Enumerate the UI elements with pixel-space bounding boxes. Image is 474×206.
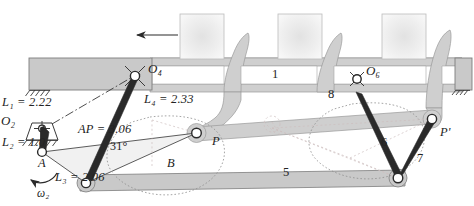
label-link-6: 6 [381, 136, 387, 149]
label-O4-text: O₄ [148, 61, 162, 76]
label-B: B [167, 157, 175, 170]
label-link-7-text: 7 [417, 151, 423, 165]
block-3 [382, 14, 426, 59]
label-L2-text: L₂ = 1.0 [2, 135, 45, 149]
bottom-bar-link5 [77, 169, 407, 192]
label-B-text: B [167, 156, 175, 170]
label-O4: O₄ [148, 62, 162, 75]
label-A-text: A [38, 156, 46, 170]
label-link-6-text: 6 [381, 135, 387, 149]
label-link-5-text: 5 [283, 165, 289, 179]
pivot-Pprime [427, 114, 436, 123]
label-L3-text: L₃ = 2.06 [55, 170, 105, 184]
label-L2: L₂ = 1.0 [2, 136, 45, 149]
label-L1: L₁ = 2.22 [2, 96, 52, 109]
label-AP: AP = 3.06 [78, 123, 131, 136]
label-omega2: ω₂ [37, 188, 50, 200]
link7-body [398, 118, 435, 178]
label-A: A [38, 157, 46, 170]
label-link-5: 5 [283, 166, 289, 179]
label-link-1-text: 1 [272, 67, 278, 81]
label-link-7: 7 [417, 152, 423, 165]
omega2-arrow [31, 173, 57, 183]
pivot-P [192, 128, 202, 138]
label-omega2-text: ω₂ [37, 187, 50, 199]
label-angle-31deg: 31° [110, 140, 127, 152]
conveyed-blocks [180, 14, 426, 59]
label-P-prime: P' [440, 126, 451, 139]
label-L1-text: L₁ = 2.22 [2, 95, 52, 109]
label-L3: L₃ = 2.06 [55, 171, 105, 184]
block-2 [278, 14, 322, 59]
label-P-prime-text: P' [440, 125, 451, 139]
label-O2: O₂ [1, 114, 15, 127]
label-AP-text: AP = 3.06 [78, 122, 131, 136]
label-O2-text: O₂ [1, 113, 15, 128]
figure-canvas: L₁ = 2.22 L₂ = 1.0 L₃ = 2.06 L₄ = 2.33 A… [0, 0, 474, 206]
label-link-8-text: 8 [328, 87, 334, 101]
pivot-link67 [393, 173, 403, 183]
label-O6-text: O₆ [366, 63, 380, 78]
label-link-1: 1 [272, 68, 278, 81]
label-link-8: 8 [328, 88, 334, 101]
label-L4: L₄ = 2.33 [144, 93, 194, 106]
ground-block-right [452, 58, 472, 95]
label-P: P [212, 135, 220, 148]
block-1 [180, 14, 224, 59]
label-O6: O₆ [366, 64, 380, 77]
label-angle-text: 31° [110, 139, 127, 153]
label-L4-text: L₄ = 2.33 [144, 92, 194, 106]
label-P-text: P [212, 134, 220, 148]
